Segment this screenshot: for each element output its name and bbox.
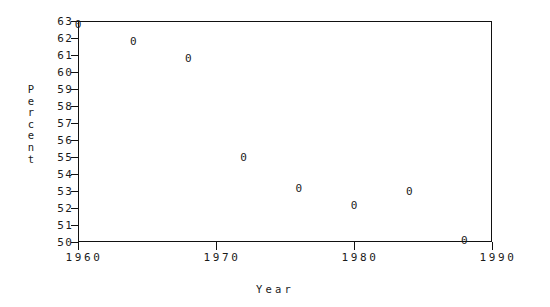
y-axis-tick-mark xyxy=(71,140,78,141)
x-axis-title: Year xyxy=(0,283,550,295)
x-axis-tick-mark xyxy=(354,242,355,250)
y-axis-tick-mark xyxy=(71,191,78,192)
y-axis-tick-labels: 5051525354555657585960616263 xyxy=(40,21,73,242)
scatter-chart: Percent 5051525354555657585960616263 196… xyxy=(0,0,550,307)
data-point: 0 xyxy=(130,36,137,47)
y-axis-tick-mark xyxy=(71,123,78,124)
x-axis-tick-label: 1960 xyxy=(66,252,103,263)
y-axis-title: Percent xyxy=(24,84,38,165)
x-axis-tick-label: 1980 xyxy=(342,252,379,263)
data-point: 0 xyxy=(406,186,413,197)
y-axis-tick-mark xyxy=(71,208,78,209)
x-axis-tick-mark xyxy=(78,242,79,250)
y-axis-tick-mark xyxy=(71,38,78,39)
y-axis-tick-mark xyxy=(71,157,78,158)
y-axis-tick-mark xyxy=(71,89,78,90)
y-axis-title-letter: P xyxy=(24,84,38,96)
x-axis-tick-mark xyxy=(492,242,493,250)
data-point: 0 xyxy=(295,182,302,193)
y-axis-tick-mark xyxy=(71,106,78,107)
data-point: 0 xyxy=(185,53,192,64)
y-axis-tick-mark xyxy=(71,72,78,73)
y-axis-tick-mark xyxy=(71,174,78,175)
plot-area xyxy=(78,21,492,242)
y-axis-tick-mark xyxy=(71,225,78,226)
data-point: 0 xyxy=(351,199,358,210)
y-axis-title-letter: n xyxy=(24,142,38,154)
data-point: 0 xyxy=(75,19,82,30)
x-axis-tick-label: 1990 xyxy=(480,252,517,263)
x-axis-tick-mark xyxy=(216,242,217,250)
y-axis-tick-mark xyxy=(71,242,78,243)
x-axis-tick-label: 1970 xyxy=(204,252,241,263)
data-point: 0 xyxy=(240,152,247,163)
y-axis-title-letter: t xyxy=(24,154,38,166)
y-axis-tick-mark xyxy=(71,55,78,56)
data-point: 0 xyxy=(461,235,468,246)
